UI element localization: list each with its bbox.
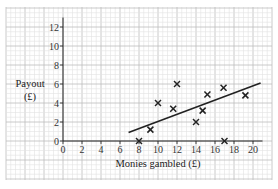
x-tick-label: 20 bbox=[248, 144, 258, 155]
x-tick-label: 10 bbox=[153, 144, 163, 155]
x-tick-label: 16 bbox=[210, 144, 220, 155]
y-tick-label: 12 bbox=[49, 22, 59, 33]
y-axis-title-unit: (£) bbox=[24, 91, 37, 103]
y-tick-label: 0 bbox=[54, 136, 59, 147]
y-tick-label: 6 bbox=[54, 79, 59, 90]
x-tick-label: 0 bbox=[61, 144, 66, 155]
y-axis-title: Payout bbox=[15, 78, 44, 89]
y-tick-label: 8 bbox=[54, 60, 59, 71]
data-point-x-marker bbox=[221, 85, 227, 91]
x-tick-label: 2 bbox=[80, 144, 85, 155]
x-axis-title: Monies gambled (£) bbox=[115, 158, 201, 170]
x-tick-label: 18 bbox=[229, 144, 239, 155]
x-tick-label: 14 bbox=[191, 144, 201, 155]
data-point-x-marker bbox=[170, 106, 176, 112]
x-tick-label: 6 bbox=[118, 144, 123, 155]
x-tick-label: 12 bbox=[172, 144, 182, 155]
scatter-chart: 02468101214161820 024681012 Monies gambl… bbox=[0, 0, 278, 189]
y-tick-label: 4 bbox=[54, 98, 59, 109]
y-tick-label: 10 bbox=[49, 41, 59, 52]
x-axis-ticks: 02468101214161820 bbox=[61, 141, 259, 155]
x-tick-label: 8 bbox=[137, 144, 142, 155]
y-tick-label: 2 bbox=[54, 117, 59, 128]
x-tick-label: 4 bbox=[99, 144, 104, 155]
